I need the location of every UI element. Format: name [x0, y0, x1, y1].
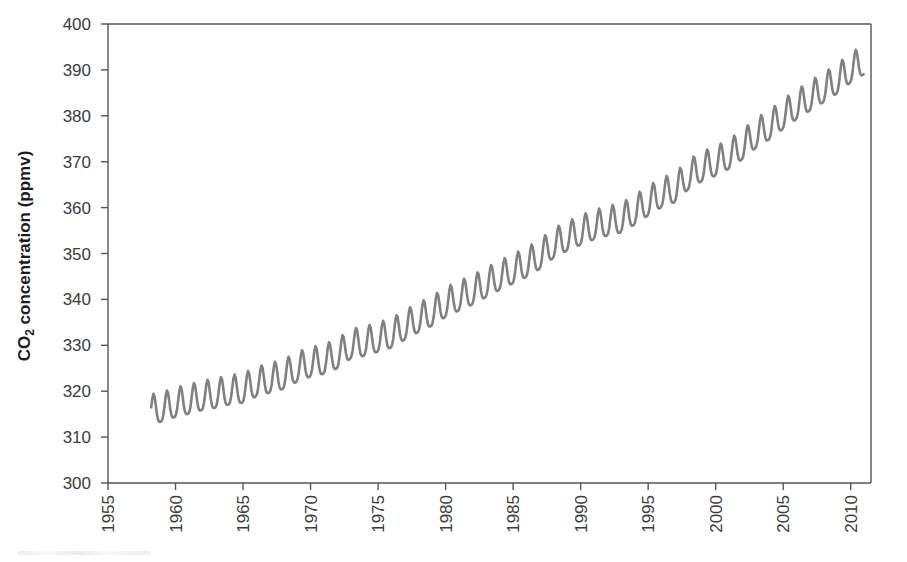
y-tick-label: 300: [63, 474, 91, 493]
y-tick-label: 380: [63, 107, 91, 126]
x-tick-label: 1980: [437, 495, 456, 533]
y-tick-label: 390: [63, 61, 91, 80]
y-tick-label: 350: [63, 245, 91, 264]
y-tick-label: 330: [63, 336, 91, 355]
x-tick-label: 1975: [369, 495, 388, 533]
chart-figure: 300310320330340350360370380390400 195519…: [0, 0, 907, 562]
scan-artifact: [18, 551, 150, 555]
x-tick-label: 1960: [167, 495, 186, 533]
y-axis-title-text: CO2 concentration (ppmv): [15, 151, 37, 362]
x-tick-label: 1970: [302, 495, 321, 533]
x-tick-label: 1955: [99, 495, 118, 533]
x-tick-label: 1995: [639, 495, 658, 533]
y-tick-label: 400: [63, 15, 91, 34]
x-tick-label: 1965: [234, 495, 253, 533]
y-tick-label: 340: [63, 290, 91, 309]
y-axis-title: CO2 concentration (ppmv): [15, 151, 37, 362]
y-tick-label: 360: [63, 199, 91, 218]
y-tick-label: 310: [63, 428, 91, 447]
x-tick-label: 2005: [774, 495, 793, 533]
x-tick-label: 2010: [842, 495, 861, 533]
y-tick-label: 370: [63, 153, 91, 172]
x-tick-label: 1990: [572, 495, 591, 533]
chart-background: [0, 0, 907, 562]
x-tick-label: 2000: [707, 495, 726, 533]
co2-concentration-line-chart: 300310320330340350360370380390400 195519…: [0, 0, 907, 562]
x-tick-label: 1985: [504, 495, 523, 533]
y-tick-label: 320: [63, 382, 91, 401]
